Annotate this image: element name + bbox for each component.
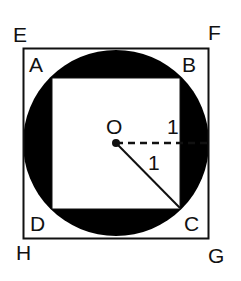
label-d: D: [30, 212, 45, 235]
label-a: A: [29, 53, 43, 76]
label-e: E: [13, 23, 27, 46]
geometry-diagram: E F G H A B C D O 1 1: [0, 0, 241, 281]
label-f: F: [208, 21, 221, 44]
label-b: B: [182, 53, 196, 76]
label-h: H: [16, 241, 31, 264]
label-c: C: [184, 212, 199, 235]
dashed-radius-length: 1: [167, 115, 179, 138]
solid-radius-length: 1: [148, 151, 160, 174]
label-o: O: [106, 115, 122, 138]
label-g: G: [208, 244, 224, 267]
center-point-o: [112, 139, 120, 147]
